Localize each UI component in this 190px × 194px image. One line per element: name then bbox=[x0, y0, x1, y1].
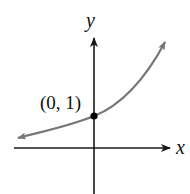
y-intercept-point bbox=[90, 112, 97, 119]
x-axis-label: x bbox=[176, 137, 185, 157]
point-label: (0, 1) bbox=[40, 93, 81, 112]
exponential-graph bbox=[0, 0, 190, 194]
exponential-curve bbox=[18, 42, 165, 138]
y-axis-label: y bbox=[86, 10, 95, 30]
